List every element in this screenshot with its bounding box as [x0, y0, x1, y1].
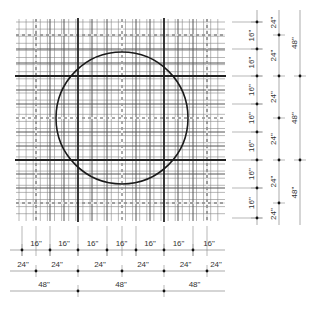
dimension-label: 16"	[30, 239, 42, 248]
dimension-dot	[163, 270, 166, 273]
bottom-dimension-lines: 16"16"16"16"16"16"16"24"24"24"24"24"24"4…	[10, 226, 225, 297]
dimension-label: 48"	[38, 280, 50, 289]
dimension-label: 24"	[94, 260, 106, 269]
right-dimension-lines: 16"16"16"16"16"16"16"24"24"24"24"24"24"4…	[232, 10, 306, 225]
dimension-dot	[278, 159, 281, 162]
dimension-dot	[121, 270, 124, 273]
dimension-label: 16"	[247, 168, 256, 180]
dimension-dot	[299, 75, 302, 78]
grid-diagram: 16"16"16"16"16"16"16"24"24"24"24"24"24"4…	[0, 0, 314, 310]
dimension-label: 24"	[210, 260, 222, 269]
dimension-dot	[256, 48, 259, 51]
dimension-dot	[77, 249, 80, 252]
dimension-dot	[278, 117, 281, 120]
dimension-dot	[77, 270, 80, 273]
dimension-label: 24"	[269, 49, 278, 61]
dimension-label: 16"	[87, 239, 99, 248]
dimension-label: 16"	[247, 197, 256, 209]
dimension-dot	[256, 103, 259, 106]
dimension-label: 48"	[290, 186, 299, 198]
dimension-dot	[256, 75, 259, 78]
dimension-dot	[278, 202, 281, 205]
dimension-label: 16"	[247, 112, 256, 124]
dimension-dot	[135, 249, 138, 252]
dimension-dot	[256, 217, 259, 220]
dimension-dot	[106, 249, 109, 252]
dimension-label: 16"	[116, 239, 128, 248]
dimension-label: 24"	[269, 16, 278, 28]
dimension-dot	[256, 21, 259, 24]
dimension-label: 48"	[189, 280, 201, 289]
dimension-label: 24"	[137, 260, 149, 269]
dimension-label: 24"	[269, 133, 278, 145]
dimension-dot	[49, 249, 52, 252]
dimension-dot	[21, 249, 24, 252]
dimension-dot	[77, 290, 80, 293]
dimension-label: 16"	[144, 239, 156, 248]
dimension-label: 24"	[180, 260, 192, 269]
dimension-dot	[256, 159, 259, 162]
dimension-dot	[35, 270, 38, 273]
dimension-dot	[256, 131, 259, 134]
dimension-dot	[256, 187, 259, 190]
dimension-dot	[278, 75, 281, 78]
dimension-dot	[163, 290, 166, 293]
dimension-label: 24"	[269, 208, 278, 220]
dimension-dot	[278, 34, 281, 37]
dimension-label: 24"	[51, 260, 63, 269]
dimension-label: 24"	[17, 260, 29, 269]
dimension-label: 24"	[269, 91, 278, 103]
dimension-dot	[192, 249, 195, 252]
dimension-label: 16"	[247, 84, 256, 96]
dimension-dot	[206, 270, 209, 273]
dimension-label: 16"	[247, 29, 256, 41]
dimension-label: 48"	[115, 280, 127, 289]
dimension-dot	[299, 159, 302, 162]
dimension-label: 48"	[290, 37, 299, 49]
dimension-label: 16"	[247, 56, 256, 68]
dimension-label: 16"	[173, 239, 185, 248]
dimension-label: 16"	[203, 239, 215, 248]
dimension-label: 16"	[58, 239, 70, 248]
dimension-label: 16"	[247, 140, 256, 152]
dimension-dot	[163, 249, 166, 252]
dimension-label: 48"	[290, 112, 299, 124]
dimension-label: 24"	[269, 175, 278, 187]
